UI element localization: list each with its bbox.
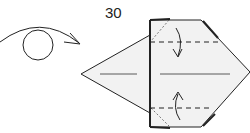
turn-over-icon <box>0 27 80 60</box>
paper-model <box>81 20 250 127</box>
main-body <box>150 20 250 127</box>
origami-diagram <box>0 0 250 133</box>
